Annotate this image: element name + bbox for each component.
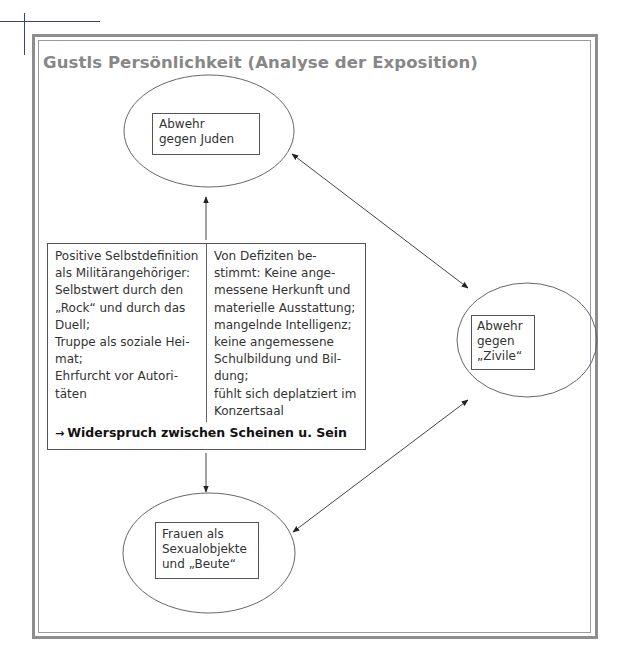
right-column-line: fühlt sich deplatziert im	[214, 386, 364, 403]
conclusion-text: Widerspruch zwischen Scheinen u. Sein	[67, 425, 347, 440]
left-column-line: täten	[55, 386, 207, 403]
top-node-line: Abwehr	[159, 117, 253, 132]
deficits-column: Von Defiziten be- stimmt: Keine ange- me…	[214, 248, 364, 420]
left-column-line: Duell;	[55, 317, 207, 334]
top-node-box: Abwehr gegen Juden	[152, 113, 260, 155]
right-node-line: gegen	[477, 334, 529, 349]
right-column-line: messene Herkunft und	[214, 282, 364, 299]
bottom-node-box: Frauen als Sexualobjekte und „Beute“	[155, 522, 259, 579]
right-column-line: Konzertsaal	[214, 403, 364, 420]
left-column-line: Positive Selbstdefinition	[55, 248, 207, 265]
right-column-line: dung;	[214, 368, 364, 385]
conclusion-line: →Widerspruch zwischen Scheinen u. Sein	[55, 425, 347, 440]
right-column-line: stimmt: Keine ange-	[214, 265, 364, 282]
left-column-line: Ehrfurcht vor Autori-	[55, 368, 207, 385]
right-column-line: Schulbildung und Bil-	[214, 351, 364, 368]
column-divider	[206, 244, 207, 422]
right-column-line: Von Defiziten be-	[214, 248, 364, 265]
bottom-node-line: und „Beute“	[162, 557, 252, 572]
center-analysis-box: Positive Selbstdefinition als Militärang…	[47, 243, 366, 450]
right-column-line: materielle Ausstattung;	[214, 300, 364, 317]
left-column-line: Selbstwert durch den	[55, 282, 207, 299]
bottom-node-line: Frauen als	[162, 527, 252, 542]
right-node-line: „Zivile“	[477, 349, 529, 364]
left-column-line: als Militärangehöriger:	[55, 265, 207, 282]
top-node-line: gegen Juden	[159, 132, 253, 147]
bottom-node-line: Sexualobjekte	[162, 542, 252, 557]
right-column-line: mangelnde Intelligenz;	[214, 317, 364, 334]
arrow-right-icon: →	[55, 427, 64, 440]
right-column-line: keine angemessene	[214, 334, 364, 351]
left-column-line: „Rock“ und durch das	[55, 300, 207, 317]
left-column-line: mat;	[55, 351, 207, 368]
left-column-line: Truppe als soziale Hei-	[55, 334, 207, 351]
positive-self-definition-column: Positive Selbstdefinition als Militärang…	[55, 248, 207, 403]
right-node-line: Abwehr	[477, 319, 529, 334]
right-node-box: Abwehr gegen „Zivile“	[471, 315, 535, 370]
